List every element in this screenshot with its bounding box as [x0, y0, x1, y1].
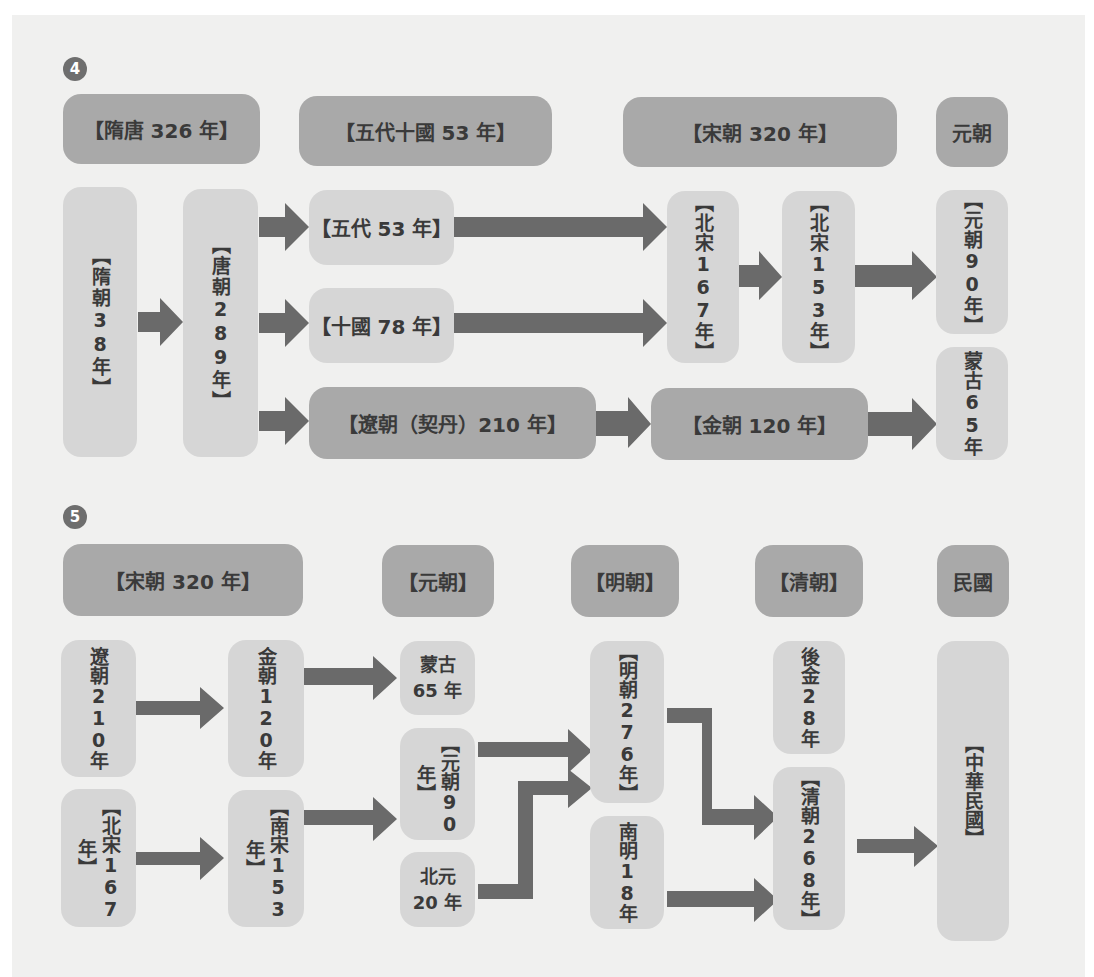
node-yuan-5-label: 【元朝90年】 — [414, 728, 462, 840]
arrow-liao-jin — [596, 397, 651, 448]
arrow-tang-liao — [259, 397, 309, 445]
node-beisong-153: 【北宋153年】 — [782, 191, 855, 363]
node-jin: 【金朝 120 年】 — [651, 388, 868, 460]
node-nanming-5: 南明18年 — [590, 816, 664, 929]
section-badge-5: 5 — [63, 505, 87, 529]
node-yuan-label: 【元朝90年】 — [960, 190, 984, 334]
header-sui-tang: 【隋唐 326 年】 — [63, 94, 260, 164]
node-roc-5-label: 【中華民國】 — [961, 734, 985, 848]
arrow-jin-menggu — [868, 398, 937, 450]
node-nansong-5-label: 【南宋153年】 — [242, 790, 290, 927]
header-wudai-shiguo: 【五代十國 53 年】 — [299, 96, 552, 166]
node-beisong-5-label: 【北宋167年】 — [75, 789, 123, 927]
arrow-beisong-beisong2 — [739, 251, 782, 300]
node-tang-label: 【唐朝289年】 — [209, 235, 233, 412]
arrow-yuan-ming-5 — [478, 729, 592, 773]
arrow-beisong2-yuan — [855, 251, 937, 300]
node-yuan: 【元朝90年】 — [936, 190, 1008, 334]
node-qing-5-label: 【清朝268年】 — [797, 768, 821, 929]
node-jin-5: 金朝120年 — [228, 640, 304, 777]
node-jin-5-label: 金朝120年 — [254, 647, 278, 770]
node-tang: 【唐朝289年】 — [183, 189, 258, 457]
arrow-wudai-beisong — [454, 203, 667, 251]
arrow-ming-qing-5 — [667, 708, 778, 840]
node-menggu-5-label: 蒙古65 年 — [410, 652, 466, 704]
node-wudai: 【五代 53 年】 — [309, 190, 454, 265]
node-ming-5: 【明朝276年】 — [590, 641, 664, 803]
node-beisong-153-label: 【北宋153年】 — [807, 193, 831, 362]
arrow-nanming-qing-5 — [667, 878, 778, 922]
header-roc-5: 民國 — [937, 545, 1009, 617]
node-liao-5-label: 遼朝210年 — [87, 647, 111, 770]
section-badge-4: 4 — [63, 57, 87, 81]
header-song-5: 【宋朝 320 年】 — [63, 544, 303, 616]
arrow-tang-shiguo — [259, 299, 309, 347]
node-menggu-5: 蒙古65 年 — [400, 641, 475, 715]
header-yuan: 元朝 — [936, 97, 1008, 167]
header-ming-5: 【明朝】 — [571, 545, 679, 617]
arrow-shiguo-beisong — [454, 299, 667, 347]
node-houjin-5-label: 後金28年 — [797, 647, 821, 748]
node-roc-5: 【中華民國】 — [937, 641, 1009, 941]
node-beisong-167: 【北宋167年】 — [667, 191, 739, 363]
node-ming-5-label: 【明朝276年】 — [615, 642, 639, 803]
node-beiyuan-5-label: 北元20 年 — [410, 864, 466, 916]
header-song: 【宋朝 320 年】 — [623, 97, 897, 167]
node-sui: 【隋朝38年】 — [63, 187, 137, 457]
arrow-nansong-yuan-5 — [304, 797, 397, 841]
node-nansong-5: 【南宋153年】 — [228, 790, 304, 927]
arrow-tang-wudai — [259, 203, 309, 251]
node-beiyuan-5: 北元20 年 — [400, 852, 475, 927]
node-liao: 【遼朝（契丹）210 年】 — [309, 387, 596, 459]
node-beisong-167-label: 【北宋167年】 — [691, 193, 715, 362]
arrow-jin-menggu-5 — [304, 656, 397, 700]
node-sui-label: 【隋朝38年】 — [88, 246, 112, 399]
node-qing-5: 【清朝268年】 — [773, 767, 845, 930]
header-qing-5: 【清朝】 — [755, 545, 863, 617]
arrow-sui-tang — [138, 298, 183, 346]
node-beisong-5: 【北宋167年】 — [61, 789, 136, 927]
node-menggu-label: 蒙古65年 — [960, 351, 984, 457]
arrow-beisong-nansong-5 — [136, 837, 224, 880]
arrow-qing-roc-5 — [857, 826, 938, 867]
node-nanming-5-label: 南明18年 — [615, 822, 639, 923]
arrow-liao-jin-5 — [136, 687, 224, 729]
node-menggu: 蒙古65年 — [936, 347, 1008, 460]
node-houjin-5: 後金28年 — [773, 641, 845, 754]
node-shiguo: 【十國 78 年】 — [309, 288, 454, 363]
node-liao-5: 遼朝210年 — [61, 640, 136, 777]
arrow-beiyuan-ming-5 — [478, 769, 592, 899]
header-yuan-5: 【元朝】 — [382, 545, 494, 617]
node-yuan-5: 【元朝90年】 — [400, 728, 475, 840]
